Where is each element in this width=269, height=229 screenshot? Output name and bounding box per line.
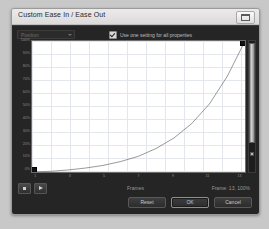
plot-row: 100% 90% 80% 70% 60% 50% 40% 30% 20% 10%…: [15, 40, 256, 173]
screen: Custom Ease In / Ease Out Position Use o…: [0, 0, 269, 229]
scrollbar-thumb[interactable]: [249, 43, 255, 143]
x-tick: 3: [69, 174, 71, 178]
frames-label: Frames: [127, 185, 144, 191]
dialog-title: Custom Ease In / Ease Out: [18, 11, 105, 18]
dialog-body: Position Use one setting for all propert…: [12, 25, 259, 214]
property-select-value: Position: [21, 32, 39, 38]
y-tick: 60%: [23, 91, 30, 95]
transport-bar: Frames Frame: 13, 100%: [15, 182, 256, 194]
y-tick: 0%: [25, 168, 30, 172]
x-axis: 1 3 5 7 9 11 13: [31, 173, 246, 182]
scrollbar-grip[interactable]: [250, 152, 254, 156]
ok-button[interactable]: OK: [171, 197, 209, 208]
use-one-setting-checkbox[interactable]: Use one setting for all properties: [109, 31, 192, 39]
plot-wrapper: 100% 90% 80% 70% 60% 50% 40% 30% 20% 10%…: [15, 40, 256, 182]
y-tick: 40%: [23, 117, 30, 121]
x-tick: 1: [34, 174, 36, 178]
chevron-down-icon: [68, 34, 72, 36]
ease-curve: [32, 41, 245, 172]
x-tick: 5: [103, 174, 105, 178]
graph-area: 100% 90% 80% 70% 60% 50% 40% 30% 20% 10%…: [15, 40, 256, 182]
ease-curve-plot[interactable]: [31, 40, 246, 173]
restore-icon[interactable]: [236, 11, 255, 24]
y-tick: 50%: [23, 104, 30, 108]
y-tick: 20%: [23, 143, 30, 147]
reset-button[interactable]: Reset: [128, 197, 166, 208]
y-tick: 10%: [23, 155, 30, 159]
y-tick: 70%: [23, 78, 30, 82]
custom-ease-dialog: Custom Ease In / Ease Out Position Use o…: [11, 8, 260, 215]
y-tick: 30%: [23, 130, 30, 134]
play-icon[interactable]: [34, 183, 47, 194]
x-tick: 13: [238, 174, 242, 178]
dialog-titlebar[interactable]: Custom Ease In / Ease Out: [12, 9, 259, 25]
end-control-point[interactable]: [240, 40, 246, 46]
graph-toolbar: Position Use one setting for all propert…: [15, 29, 256, 40]
x-tick: 7: [138, 174, 140, 178]
vertical-scrollbar[interactable]: [248, 40, 256, 173]
stop-icon[interactable]: [18, 183, 31, 194]
frame-info: Frame: 13, 100%: [212, 185, 250, 191]
use-one-setting-label: Use one setting for all properties: [120, 32, 192, 38]
checkmark-icon: [109, 31, 117, 39]
y-tick: 100%: [21, 39, 30, 43]
x-tick: 9: [172, 174, 174, 178]
y-tick: 80%: [23, 65, 30, 69]
y-tick: 90%: [23, 52, 30, 56]
x-tick: 11: [205, 174, 209, 178]
cancel-button[interactable]: Cancel: [214, 197, 252, 208]
y-axis: 100% 90% 80% 70% 60% 50% 40% 30% 20% 10%…: [15, 40, 31, 173]
dialog-footer: Reset OK Cancel: [15, 194, 256, 211]
